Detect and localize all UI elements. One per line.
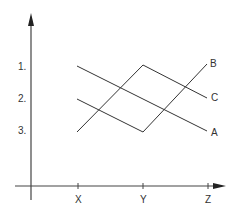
line-a-label: A <box>211 128 218 138</box>
y-label-3: 3. <box>18 126 26 136</box>
x-axis-arrow-icon <box>213 183 226 189</box>
line-c-label: C <box>211 93 218 103</box>
diagram-canvas <box>0 0 236 214</box>
x-label-y: Y <box>140 195 147 205</box>
x-label-x: X <box>75 195 82 205</box>
y-axis-arrow-icon <box>28 13 34 26</box>
y-label-1: 1. <box>18 62 26 72</box>
x-label-z: Z <box>205 195 211 205</box>
line-a <box>77 66 207 131</box>
y-label-2: 2. <box>18 94 26 104</box>
line-b-label: B <box>210 59 217 69</box>
